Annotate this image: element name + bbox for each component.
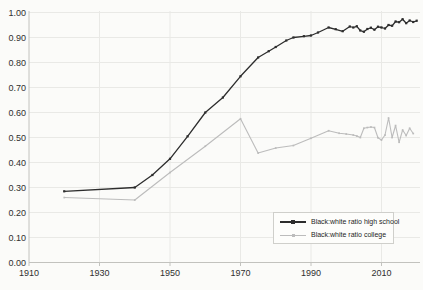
data-point-marker: [169, 172, 171, 174]
chart-svg: 1910193019501970199020100.000.100.200.30…: [0, 0, 423, 290]
data-point-marker: [387, 24, 389, 26]
x-tick-label: 1990: [301, 268, 321, 278]
data-point-marker: [63, 190, 65, 192]
data-point-marker: [352, 26, 354, 28]
x-tick-label: 1970: [230, 268, 250, 278]
data-point-marker: [359, 29, 361, 31]
data-point-marker: [204, 111, 206, 113]
data-point-marker: [345, 133, 347, 135]
data-point-marker: [402, 18, 404, 20]
data-point-marker: [416, 20, 418, 22]
data-point-marker: [310, 34, 312, 36]
data-point-marker: [239, 75, 241, 77]
data-point-marker: [395, 125, 397, 127]
data-point-marker: [257, 152, 259, 154]
high-school-line-sample-icon: [280, 218, 306, 226]
y-tick-label: 0.80: [8, 58, 26, 68]
y-tick-label: 0.00: [8, 258, 26, 268]
data-point-marker: [63, 197, 65, 199]
data-point-marker: [384, 134, 386, 136]
data-point-marker: [398, 141, 400, 143]
data-point-marker: [268, 50, 270, 52]
data-point-marker: [285, 39, 287, 41]
data-point-marker: [381, 139, 383, 141]
chart: 1910193019501970199020100.000.100.200.30…: [0, 0, 423, 290]
y-tick-label: 1.00: [8, 8, 26, 18]
legend-label-high-school: Black:white ratio high school: [311, 218, 399, 225]
data-point-marker: [360, 137, 362, 139]
data-point-marker: [310, 137, 312, 139]
data-point-marker: [328, 26, 330, 28]
data-point-marker: [187, 135, 189, 137]
data-point-marker: [363, 127, 365, 129]
y-tick-label: 0.90: [8, 33, 26, 43]
data-point-marker: [373, 29, 375, 31]
data-point-marker: [240, 118, 242, 120]
x-tick-label: 2010: [371, 268, 391, 278]
data-point-marker: [388, 117, 390, 119]
data-point-marker: [409, 127, 411, 129]
legend-item-high-school: Black:white ratio high school: [280, 217, 387, 227]
data-point-marker: [412, 133, 414, 135]
data-point-marker: [303, 35, 305, 37]
data-point-marker: [356, 135, 358, 137]
data-point-marker: [391, 25, 393, 27]
data-point-marker: [292, 36, 294, 38]
data-point-marker: [366, 28, 368, 30]
data-point-marker: [395, 20, 397, 22]
y-tick-label: 0.70: [8, 83, 26, 93]
data-point-marker: [405, 135, 407, 137]
y-tick-label: 0.10: [8, 233, 26, 243]
data-point-marker: [370, 27, 372, 29]
data-point-marker: [398, 21, 400, 23]
data-point-marker: [342, 30, 344, 32]
data-point-marker: [367, 127, 369, 129]
y-tick-label: 0.60: [8, 108, 26, 118]
data-point-marker: [405, 22, 407, 24]
legend-label-college: Black:white ratio college: [311, 231, 386, 238]
data-point-marker: [134, 186, 136, 188]
data-point-marker: [338, 132, 340, 134]
data-point-marker: [402, 129, 404, 131]
data-point-marker: [293, 145, 295, 147]
data-point-marker: [412, 21, 414, 23]
data-point-marker: [204, 145, 206, 147]
data-point-marker: [374, 127, 376, 129]
y-tick-label: 0.30: [8, 183, 26, 193]
data-point-marker: [370, 126, 372, 128]
data-point-marker: [275, 147, 277, 149]
college-line-sample-icon: [280, 231, 306, 239]
data-point-marker: [380, 26, 382, 28]
data-point-marker: [169, 158, 171, 160]
data-point-marker: [257, 56, 259, 58]
legend-item-college: Black:white ratio college: [280, 230, 387, 240]
data-point-marker: [151, 174, 153, 176]
y-tick-label: 0.40: [8, 158, 26, 168]
data-point-marker: [377, 26, 379, 28]
data-point-marker: [328, 130, 330, 132]
x-tick-label: 1930: [89, 268, 109, 278]
data-point-marker: [275, 46, 277, 48]
data-point-marker: [391, 137, 393, 139]
data-point-marker: [222, 96, 224, 98]
y-tick-label: 0.20: [8, 208, 26, 218]
data-point-marker: [352, 134, 354, 136]
data-point-marker: [349, 25, 351, 27]
data-point-marker: [377, 137, 379, 139]
x-tick-label: 1950: [160, 268, 180, 278]
data-point-marker: [317, 31, 319, 33]
y-tick-label: 0.50: [8, 133, 26, 143]
data-point-marker: [356, 25, 358, 27]
legend: Black:white ratio high school Black:whit…: [273, 212, 394, 244]
data-point-marker: [335, 28, 337, 30]
x-tick-label: 1910: [19, 268, 39, 278]
data-point-marker: [363, 31, 365, 33]
data-point-marker: [409, 19, 411, 21]
data-point-marker: [134, 199, 136, 201]
data-point-marker: [384, 27, 386, 29]
